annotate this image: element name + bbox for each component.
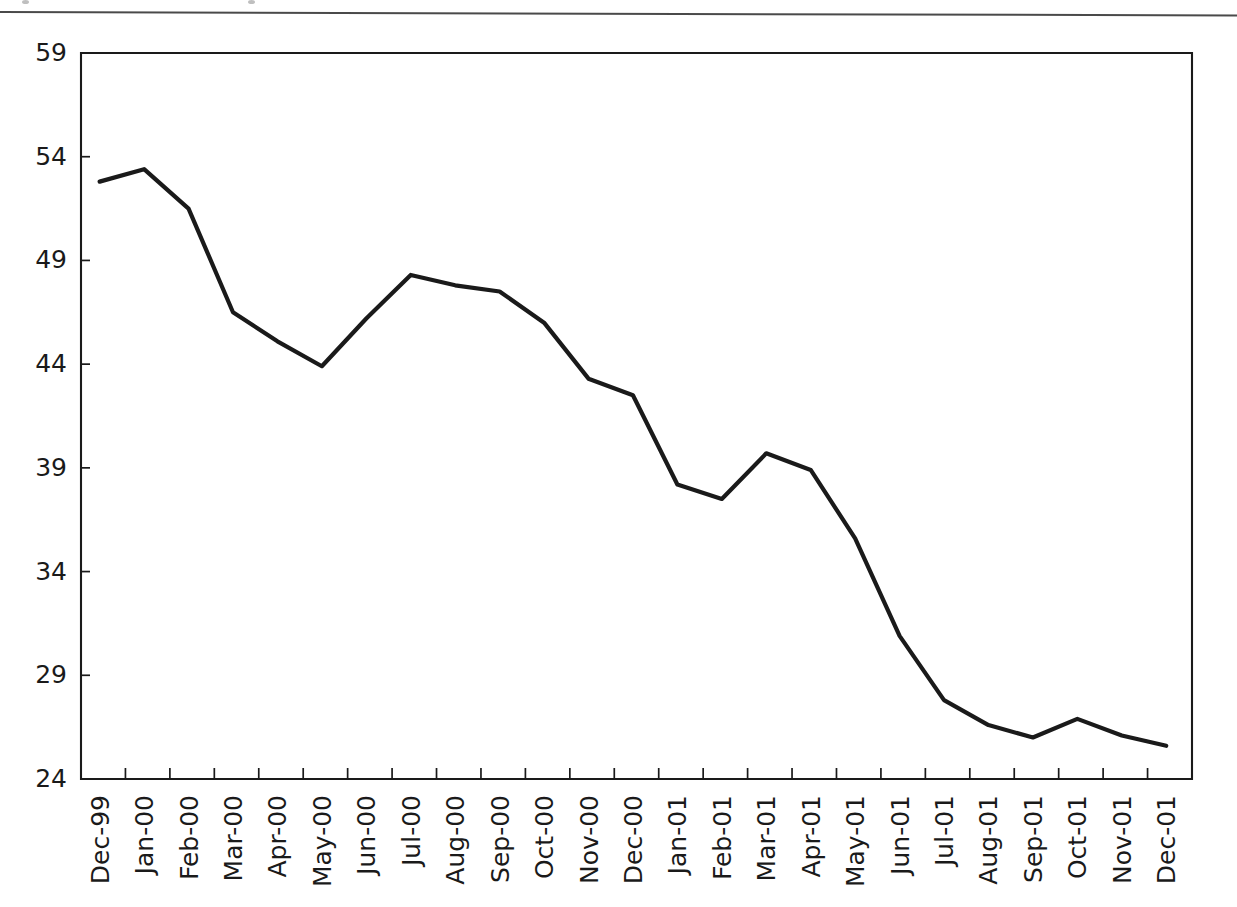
x-axis-tick-label: Jan-00	[130, 795, 159, 876]
x-axis-tick-label: Nov-00	[575, 795, 604, 884]
x-axis-tick-label: Dec-01	[1152, 795, 1181, 884]
y-axis-tick-label: 54	[35, 142, 67, 171]
y-axis-tick-label: 49	[35, 245, 67, 274]
x-axis-tick-label: Jan-01	[663, 795, 692, 876]
x-axis-tick-label: Oct-01	[1063, 795, 1092, 879]
x-axis-tick-label: Sep-00	[486, 795, 515, 883]
x-axis-tick-label: Feb-01	[708, 795, 737, 880]
x-axis-tick-label: Aug-01	[974, 795, 1003, 885]
x-axis-tick-label: Jul-00	[397, 795, 426, 868]
x-axis-tick-label: Jun-00	[352, 795, 381, 877]
y-axis-tick-label: 39	[35, 453, 67, 482]
x-axis-tick-label: Dec-99	[86, 795, 115, 884]
x-axis-tick-label: Sep-01	[1019, 795, 1048, 883]
chart-page: 2429343944495459 Dec-99Jan-00Feb-00Mar-0…	[0, 0, 1237, 907]
y-axis-tick-label: 44	[35, 349, 67, 378]
x-axis-tick-label: Jul-01	[930, 795, 959, 868]
x-axis-tick-label: May-00	[308, 795, 337, 887]
y-axis-tick-label: 29	[35, 660, 67, 689]
x-axis-tick-label: May-01	[841, 795, 870, 887]
line-chart: 2429343944495459 Dec-99Jan-00Feb-00Mar-0…	[0, 0, 1237, 907]
x-axis-tick-label: Apr-01	[797, 795, 826, 877]
x-axis-tick-label: Oct-00	[530, 795, 559, 879]
y-axis-tick-labels: 2429343944495459	[35, 38, 67, 793]
x-axis-tick-label: Nov-01	[1108, 795, 1137, 884]
x-axis-tick-label: Mar-01	[752, 795, 781, 881]
x-axis-tick-labels: Dec-99Jan-00Feb-00Mar-00Apr-00May-00Jun-…	[86, 795, 1182, 887]
x-axis-tick-label: Mar-00	[219, 795, 248, 881]
x-axis-tick-label: Feb-00	[175, 795, 204, 880]
y-axis-tick-label: 24	[35, 764, 67, 793]
x-axis-tick-marks	[125, 768, 1147, 779]
x-axis-tick-label: Aug-00	[441, 795, 470, 885]
x-axis-tick-label: Apr-00	[263, 795, 292, 877]
y-axis-tick-label: 59	[35, 38, 67, 67]
plot-area-frame	[81, 53, 1192, 779]
y-axis-tick-label: 34	[35, 557, 67, 586]
x-axis-tick-label: Dec-00	[619, 795, 648, 884]
x-axis-tick-label: Jun-01	[886, 795, 915, 877]
data-series-line	[100, 169, 1167, 746]
y-axis-tick-marks	[81, 157, 90, 676]
chart-svg: 2429343944495459 Dec-99Jan-00Feb-00Mar-0…	[0, 0, 1237, 907]
